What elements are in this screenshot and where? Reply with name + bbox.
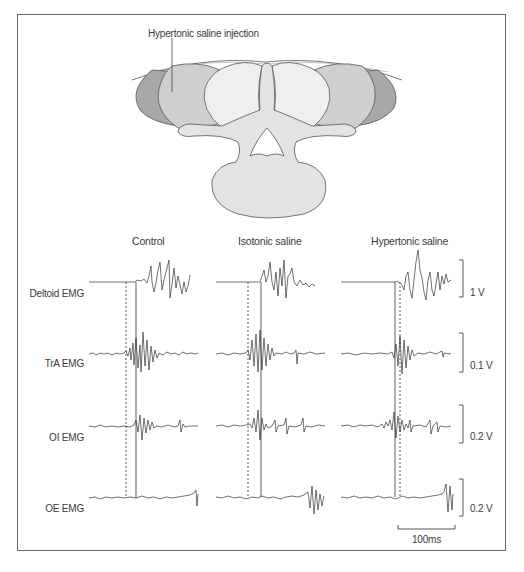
column-title-hypertonic: Hypertonic saline (371, 235, 448, 247)
row-label-oe: OE EMG (20, 503, 84, 514)
onset-markers (126, 282, 400, 498)
scale-label-oe: 0.2 V (470, 503, 492, 514)
scale-label-deltoid: 1 V (470, 287, 484, 298)
injection-annotation: Hypertonic saline injection (148, 28, 259, 39)
row-label-tra: TrA EMG (20, 358, 84, 369)
column-title-control: Control (132, 235, 164, 247)
scale-bars (398, 260, 463, 529)
row-label-deltoid: Deltoid EMG (20, 288, 84, 299)
spine-cross-section-illustration (132, 60, 402, 218)
figure-graphics (0, 0, 524, 572)
row-label-oi: OI EMG (20, 432, 84, 443)
scale-label-time: 100ms (412, 534, 441, 545)
emg-traces (89, 250, 453, 514)
scale-label-tra: 0.1 V (470, 360, 492, 371)
scale-label-oi: 0.2 V (470, 431, 492, 442)
column-title-isotonic: Isotonic saline (238, 235, 302, 247)
